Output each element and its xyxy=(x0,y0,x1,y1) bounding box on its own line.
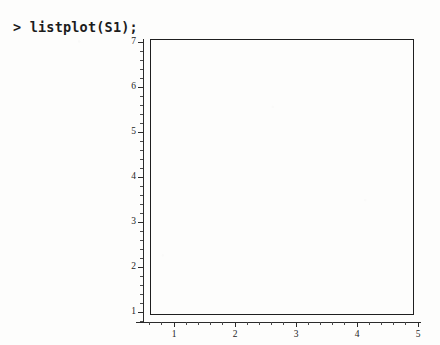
x-tick-label: 2 xyxy=(228,329,242,339)
y-tick-minor xyxy=(140,213,143,214)
x-tick-label: 1 xyxy=(167,329,181,339)
x-tick-minor xyxy=(393,322,394,325)
x-tick-minor xyxy=(381,322,382,325)
y-tick-major xyxy=(138,312,143,313)
y-tick-minor xyxy=(140,150,143,151)
y-tick-major xyxy=(138,267,143,268)
y-tick-major xyxy=(138,132,143,133)
x-tick-minor xyxy=(344,322,345,325)
x-tick-minor xyxy=(247,322,248,325)
y-tick-label: 5 xyxy=(122,126,136,136)
y-tick-minor xyxy=(140,231,143,232)
y-tick-minor xyxy=(140,303,143,304)
x-tick-minor xyxy=(332,322,333,325)
y-tick-major xyxy=(138,42,143,43)
maple-worksheet-page: > listplot(S1); 1234567 12345 xyxy=(0,0,440,345)
x-tick-minor xyxy=(161,322,162,325)
x-tick-label: 5 xyxy=(411,329,425,339)
x-tick-minor xyxy=(308,322,309,325)
x-tick-minor xyxy=(198,322,199,325)
y-tick-minor xyxy=(140,285,143,286)
x-tick-major xyxy=(296,322,297,327)
y-tick-minor xyxy=(140,258,143,259)
y-tick-minor xyxy=(140,114,143,115)
x-tick-minor xyxy=(271,322,272,325)
y-tick-minor xyxy=(140,240,143,241)
y-tick-minor xyxy=(140,105,143,106)
y-tick-label: 2 xyxy=(122,261,136,271)
y-tick-minor xyxy=(140,141,143,142)
x-tick-major xyxy=(357,322,358,327)
x-tick-minor xyxy=(369,322,370,325)
y-tick-minor xyxy=(140,78,143,79)
y-tick-minor xyxy=(140,294,143,295)
listplot-figure: 1234567 12345 xyxy=(0,0,440,345)
x-tick-label: 4 xyxy=(350,329,364,339)
y-tick-minor xyxy=(140,123,143,124)
y-tick-minor xyxy=(140,276,143,277)
y-tick-minor xyxy=(140,204,143,205)
y-tick-minor xyxy=(140,159,143,160)
y-tick-minor xyxy=(140,321,143,322)
y-tick-label: 7 xyxy=(122,36,136,46)
x-tick-label: 3 xyxy=(289,329,303,339)
y-tick-label: 1 xyxy=(122,306,136,316)
plot-data-area[interactable] xyxy=(151,40,413,314)
x-axis-line xyxy=(136,322,421,323)
y-tick-minor xyxy=(140,60,143,61)
x-tick-major xyxy=(235,322,236,327)
x-tick-minor xyxy=(283,322,284,325)
x-tick-minor xyxy=(320,322,321,325)
y-tick-major xyxy=(138,87,143,88)
y-axis-line xyxy=(143,39,144,322)
y-tick-label: 3 xyxy=(122,216,136,226)
y-tick-label: 6 xyxy=(122,81,136,91)
x-tick-minor xyxy=(259,322,260,325)
y-tick-label: 4 xyxy=(122,171,136,181)
y-tick-minor xyxy=(140,51,143,52)
y-tick-minor xyxy=(140,96,143,97)
y-tick-minor xyxy=(140,195,143,196)
y-tick-minor xyxy=(140,69,143,70)
y-tick-minor xyxy=(140,168,143,169)
y-tick-major xyxy=(138,222,143,223)
x-tick-minor xyxy=(210,322,211,325)
y-tick-minor xyxy=(140,186,143,187)
y-tick-minor xyxy=(140,249,143,250)
x-tick-major xyxy=(174,322,175,327)
y-tick-major xyxy=(138,177,143,178)
x-tick-minor xyxy=(405,322,406,325)
x-tick-minor xyxy=(222,322,223,325)
x-tick-minor xyxy=(149,322,150,325)
x-tick-major xyxy=(418,322,419,327)
x-tick-minor xyxy=(186,322,187,325)
